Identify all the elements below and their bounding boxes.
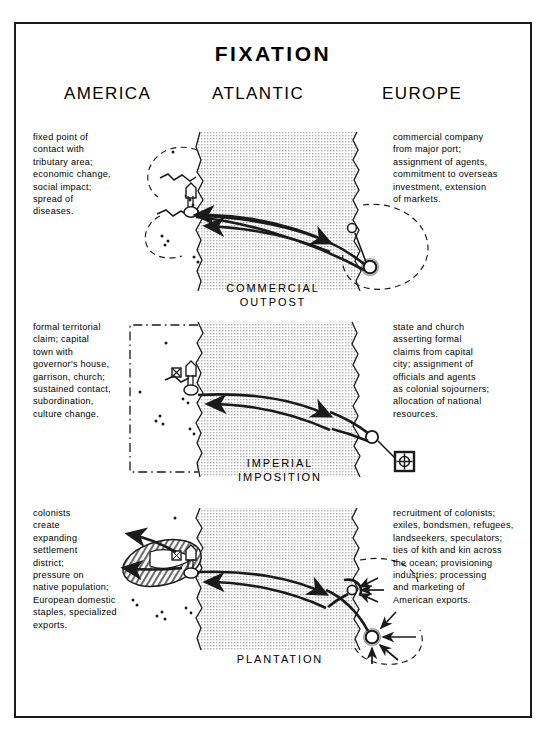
region-heading-america: AMERICA xyxy=(64,84,151,104)
america-text-commercial-outpost: fixed point of contact with tributary ar… xyxy=(33,131,143,218)
region-headings: AMERICA ATLANTIC EUROPE xyxy=(14,84,532,108)
america-text-plantation: colonists create expanding settlement di… xyxy=(33,507,143,631)
region-heading-atlantic: ATLANTIC xyxy=(212,84,304,104)
europe-text-plantation: recruitment of colonists; exiles, bondsm… xyxy=(393,507,535,606)
america-text-imperial-imposition: formal territorial claim; capital town w… xyxy=(33,321,143,420)
panel-label-commercial-outpost: COMMERCIAL OUTPOST xyxy=(173,281,373,309)
fixation-diagram: FIXATION AMERICA ATLANTIC EUROPE xyxy=(0,0,546,734)
page-title: FIXATION xyxy=(0,42,546,66)
panel-label-plantation: PLANTATION xyxy=(180,652,380,666)
panel-label-imperial-imposition: IMPERIAL IMPOSITION xyxy=(180,456,380,484)
region-heading-europe: EUROPE xyxy=(382,84,462,104)
europe-text-commercial-outpost: commercial company from major port; assi… xyxy=(393,131,535,205)
europe-text-imperial-imposition: state and church asserting formal claims… xyxy=(393,321,535,420)
